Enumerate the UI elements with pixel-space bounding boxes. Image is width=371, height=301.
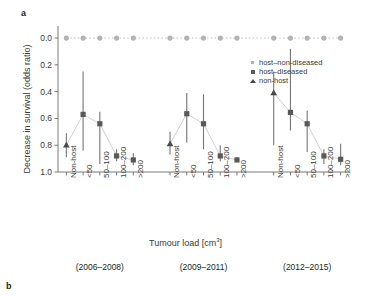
data-point-host-diseased: [288, 110, 293, 115]
legend-item-host-non-diseased: host–non-diseased: [247, 58, 322, 67]
legend-marker-square-dark-icon: [247, 70, 258, 74]
reference-point-marker: [321, 35, 326, 40]
data-point-host-diseased: [97, 121, 102, 126]
x-axis-tick-label: >200: [344, 160, 352, 178]
x-axis-tick-label: <50: [190, 164, 198, 178]
data-point-host-diseased: [305, 121, 310, 126]
reference-point-marker: [305, 35, 310, 40]
reference-point-marker: [338, 35, 343, 40]
x-axis-title-text: Tumour load [cm: [149, 238, 216, 248]
reference-point-marker: [271, 35, 276, 40]
x-axis-tick-label: 100–200: [120, 147, 128, 178]
legend-label: host–diseased: [258, 67, 307, 76]
legend-label: non-host: [258, 76, 288, 85]
reference-point-marker: [81, 35, 86, 40]
x-axis-tick-label: 100–200: [327, 147, 335, 178]
x-axis-tick-label: 100–200: [223, 147, 231, 178]
data-point-host-diseased: [201, 121, 206, 126]
x-axis-tick-label: 50–100: [103, 151, 111, 178]
x-axis-tick-label: <50: [86, 164, 94, 178]
group-period-label: (2006–2008): [60, 262, 140, 272]
legend-marker-small-square-light-icon: [247, 61, 258, 64]
legend-item-non-host: non-host: [247, 76, 322, 85]
data-point-host-diseased: [81, 112, 86, 117]
legend-marker-triangle-dark-icon: [247, 79, 258, 83]
x-axis-tick-label: Non-host: [70, 146, 78, 178]
group-period-label: (2009–2011): [164, 262, 244, 272]
figure-container: a b Decrease in survival (odds ratio) 1.…: [0, 0, 371, 301]
x-axis-tick-label: >200: [137, 160, 145, 178]
legend-label: host–non-diseased: [258, 58, 322, 67]
reference-point-marker: [184, 35, 189, 40]
reference-point-marker: [288, 35, 293, 40]
reference-point-marker: [201, 35, 206, 40]
x-axis-tick-label: <50: [294, 164, 302, 178]
x-axis-tick-label: >200: [240, 160, 248, 178]
reference-point-marker: [234, 35, 239, 40]
group-period-label: (2012–2015): [267, 262, 347, 272]
reference-point-marker: [167, 35, 172, 40]
x-axis-tick-label: Non-host: [277, 146, 285, 178]
legend: host–non-diseased host–diseased non-host: [247, 58, 322, 85]
x-axis-tick-label: Non-host: [173, 146, 181, 178]
reference-point-marker: [131, 35, 136, 40]
data-point-non-host: [270, 90, 277, 96]
x-axis-title-tail: ]: [220, 238, 223, 248]
legend-item-host-diseased: host–diseased: [247, 67, 322, 76]
reference-point-marker: [114, 35, 119, 40]
x-axis-title: Tumour load [cm3]: [0, 238, 371, 248]
data-point-host-diseased: [184, 111, 189, 116]
reference-point-marker: [218, 35, 223, 40]
reference-point-marker: [64, 35, 69, 40]
x-axis-tick-label: 50–100: [207, 151, 215, 178]
reference-point-marker: [97, 35, 102, 40]
x-axis-tick-label: 50–100: [310, 151, 318, 178]
